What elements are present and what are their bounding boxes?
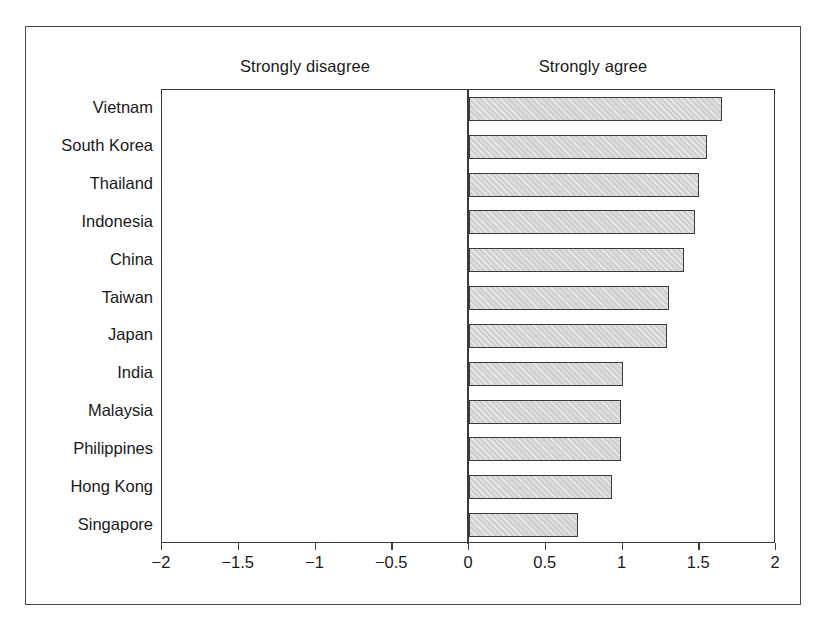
x-tick-mark [315, 543, 316, 550]
x-tick-label: −0.5 [356, 552, 426, 572]
header-label-strongly-disagree: Strongly disagree [205, 56, 405, 76]
chart-figure: Strongly disagree Strongly agree Vietnam… [0, 0, 831, 630]
category-label-philippines: Philippines [3, 439, 153, 458]
zero-axis-line [467, 90, 469, 544]
x-tick-mark [238, 543, 239, 550]
bar-singapore [469, 513, 578, 537]
bar-japan [469, 324, 667, 348]
bar-malaysia [469, 400, 621, 424]
category-axis-labels: VietnamSouth KoreaThailandIndonesiaChina… [0, 89, 153, 543]
bar-philippines [469, 437, 621, 461]
x-tick-mark [545, 543, 546, 550]
category-label-hong-kong: Hong Kong [3, 477, 153, 496]
x-tick-label: −2 [126, 552, 196, 572]
category-label-china: China [3, 250, 153, 269]
x-tick-label: 0.5 [510, 552, 580, 572]
bar-india [469, 362, 623, 386]
x-tick-mark [698, 543, 699, 550]
category-label-vietnam: Vietnam [3, 98, 153, 117]
x-tick-label: 0 [433, 552, 503, 572]
x-tick-label: 1 [587, 552, 657, 572]
header-label-strongly-agree: Strongly agree [493, 56, 693, 76]
plot-area [161, 89, 775, 543]
bar-china [469, 248, 684, 272]
category-label-singapore: Singapore [3, 515, 153, 534]
x-tick-mark [391, 543, 392, 550]
x-tick-label: 2 [740, 552, 810, 572]
category-label-indonesia: Indonesia [3, 212, 153, 231]
bar-taiwan [469, 286, 669, 310]
bar-hong-kong [469, 475, 612, 499]
category-label-malaysia: Malaysia [3, 401, 153, 420]
category-label-thailand: Thailand [3, 174, 153, 193]
x-tick-mark [161, 543, 162, 550]
x-tick-mark [622, 543, 623, 550]
x-tick-label: −1 [280, 552, 350, 572]
x-axis: −2−1.5−1−0.500.511.52 [161, 543, 775, 583]
category-label-south-korea: South Korea [3, 136, 153, 155]
x-tick-label: −1.5 [203, 552, 273, 572]
x-tick-mark [775, 543, 776, 550]
bar-thailand [469, 173, 699, 197]
category-label-india: India [3, 363, 153, 382]
bar-indonesia [469, 210, 695, 234]
bar-south-korea [469, 135, 707, 159]
category-label-taiwan: Taiwan [3, 288, 153, 307]
x-tick-mark [468, 543, 469, 550]
bar-vietnam [469, 97, 722, 121]
x-tick-label: 1.5 [663, 552, 733, 572]
category-label-japan: Japan [3, 325, 153, 344]
